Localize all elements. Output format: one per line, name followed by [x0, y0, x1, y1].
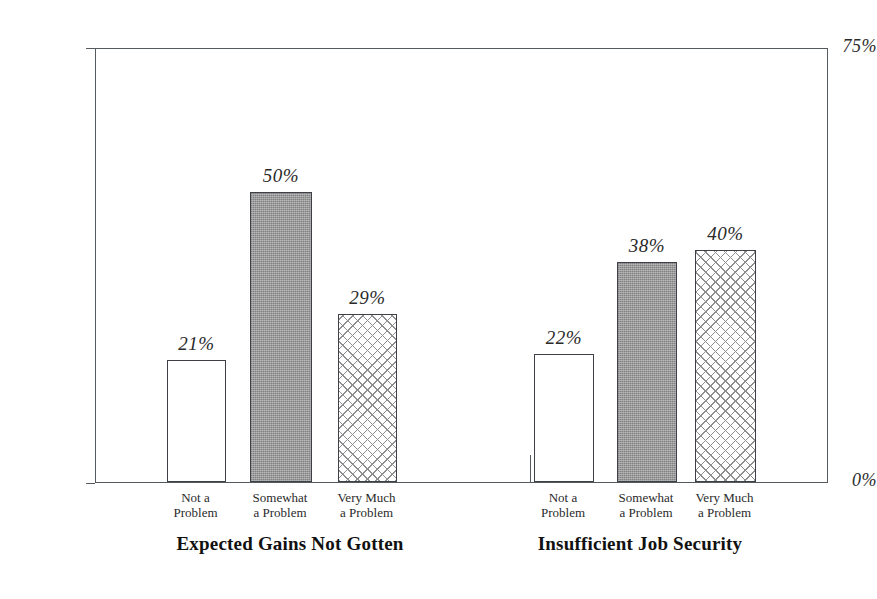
bar-value-label: 22%: [546, 327, 582, 349]
group-separator-tick: [530, 455, 531, 483]
bar: 50%: [250, 192, 312, 482]
bar-value-label: 40%: [707, 223, 743, 245]
bar: 40%: [695, 250, 756, 482]
x-axis-category-label: Somewhata Problem: [602, 490, 690, 520]
x-axis-category-label-line: Not a: [519, 490, 607, 505]
x-axis-category-label-line: Somewhat: [602, 490, 690, 505]
x-axis-category-label-line: a Problem: [602, 505, 690, 520]
bar-value-label: 50%: [263, 165, 299, 187]
bar: 38%: [617, 262, 677, 482]
x-axis-category-label: Very Mucha Problem: [680, 490, 769, 520]
x-axis-category-label-line: Not a: [152, 490, 239, 505]
x-axis-category-label-line: a Problem: [323, 505, 410, 520]
x-axis-category-label: Somewhata Problem: [235, 490, 325, 520]
y-axis-tick-mark-bottom: [86, 483, 95, 484]
bar: 21%: [167, 360, 226, 482]
bar-value-label: 29%: [349, 287, 385, 309]
y-axis-tick-mark-top: [86, 48, 95, 49]
bar-value-label: 21%: [178, 333, 214, 355]
x-axis-category-label-line: a Problem: [680, 505, 769, 520]
group-title: Insufficient Job Security: [490, 533, 790, 555]
bar: 22%: [534, 354, 594, 482]
x-axis-category-label-line: a Problem: [235, 505, 325, 520]
x-axis-category-label: Not aProblem: [152, 490, 239, 520]
x-axis-category-label-line: Very Much: [680, 490, 769, 505]
x-axis-category-label-line: Problem: [152, 505, 239, 520]
x-axis-category-label: Very Mucha Problem: [323, 490, 410, 520]
x-axis-category-label-line: Somewhat: [235, 490, 325, 505]
bar: 29%: [338, 314, 397, 482]
plot-area: 21%50%29%22%38%40%: [95, 48, 828, 483]
group-title: Expected Gains Not Gotten: [140, 533, 440, 555]
x-axis-category-label-line: Problem: [519, 505, 607, 520]
x-axis-category-label: Not aProblem: [519, 490, 607, 520]
bar-value-label: 38%: [629, 235, 665, 257]
bar-chart-figure: 75% 0% 21%50%29%22%38%40% Not aProblemSo…: [0, 0, 877, 599]
x-axis-category-label-line: Very Much: [323, 490, 410, 505]
